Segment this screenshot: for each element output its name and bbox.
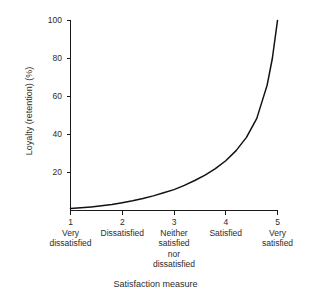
x-category-label: Satisfied — [209, 228, 242, 239]
y-tick-label: 40 — [30, 130, 62, 139]
axes-group — [71, 21, 278, 211]
x-category-label: Very satisfied — [262, 228, 293, 249]
y-axis-title: Loyalty (retention) (%) — [24, 36, 34, 186]
y-tick-label: 100 — [30, 16, 62, 25]
x-category-label: Very dissatisfied — [49, 228, 91, 249]
y-tick-label: 80 — [30, 54, 62, 63]
y-tick-label: 60 — [30, 92, 62, 101]
satisfaction-loyalty-chart: 20406080100 1Very dissatisfied2Dissatisf… — [0, 0, 311, 298]
x-category-label: Neither satisfied nor dissatisfied — [153, 228, 195, 270]
x-tick-number: 4 — [223, 217, 228, 227]
x-tick-number: 2 — [120, 217, 125, 227]
x-tick-number: 3 — [172, 217, 177, 227]
y-tick-marks — [67, 21, 71, 173]
x-tick-number: 5 — [275, 217, 280, 227]
x-tick-number: 1 — [68, 217, 73, 227]
y-tick-label: 20 — [30, 168, 62, 177]
x-category-label: Dissatisfied — [101, 228, 144, 239]
loyalty-curve — [71, 21, 278, 209]
x-axis-title: Satisfaction measure — [0, 279, 311, 290]
x-tick-marks — [71, 211, 278, 215]
